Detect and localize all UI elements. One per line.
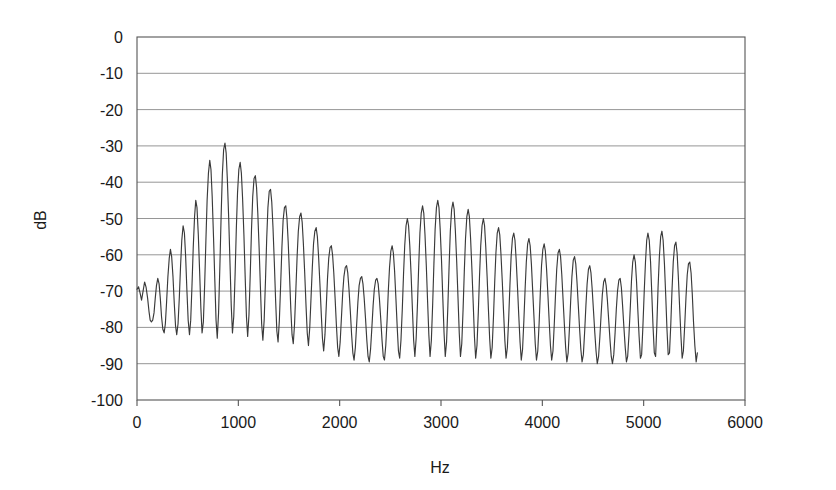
- x-tick-label: 0: [133, 414, 142, 431]
- y-tick-label: -90: [100, 356, 123, 373]
- y-tick-label: -30: [100, 138, 123, 155]
- x-tick-label: 1000: [221, 414, 257, 431]
- y-axis-title: dB: [32, 210, 49, 230]
- x-axis-ticks: [137, 400, 745, 406]
- y-tick-label: -80: [100, 319, 123, 336]
- y-tick-label: -40: [100, 174, 123, 191]
- y-tick-label: 0: [114, 29, 123, 46]
- y-tick-label: -100: [91, 392, 123, 409]
- x-tick-label: 5000: [626, 414, 662, 431]
- spectrum-figure: 0-10-20-30-40-50-60-70-80-90-100 0100020…: [0, 0, 836, 490]
- x-tick-label: 4000: [525, 414, 561, 431]
- y-tick-label: -70: [100, 283, 123, 300]
- y-tick-label: -50: [100, 211, 123, 228]
- x-axis-title: Hz: [430, 459, 450, 476]
- x-tick-label: 2000: [322, 414, 358, 431]
- spectrum-trace-line: [137, 143, 697, 364]
- x-tick-label: 6000: [727, 414, 763, 431]
- y-tick-label: -10: [100, 65, 123, 82]
- x-axis-tick-labels: 0100020003000400050006000: [133, 414, 763, 431]
- y-tick-label: -60: [100, 247, 123, 264]
- y-tick-label: -20: [100, 102, 123, 119]
- spectrum-chart: 0-10-20-30-40-50-60-70-80-90-100 0100020…: [0, 0, 836, 490]
- x-tick-label: 3000: [423, 414, 459, 431]
- y-axis-tick-labels: 0-10-20-30-40-50-60-70-80-90-100: [91, 29, 123, 409]
